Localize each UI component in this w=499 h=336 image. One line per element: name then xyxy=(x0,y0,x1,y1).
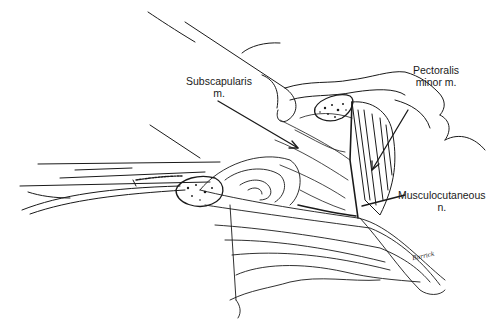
label-subscapularis: Subscapularis m. xyxy=(186,75,252,99)
upper-retractor xyxy=(185,22,296,122)
anatomy-drawing xyxy=(0,0,499,336)
bone-fragment xyxy=(176,177,223,207)
label-line: minor m. xyxy=(413,76,459,88)
subscapularis-muscle xyxy=(275,114,356,217)
label-line: Subscapularis xyxy=(186,75,252,87)
label-line: Pectoralis xyxy=(413,64,459,76)
label-line: Musculocutaneous xyxy=(398,189,486,201)
clamp-forceps xyxy=(20,12,220,214)
pectoralis-minor-muscle xyxy=(350,102,395,218)
illustration-canvas: Subscapularis m. Pectoralis minor m. Mus… xyxy=(0,0,499,336)
label-line: n. xyxy=(398,201,486,213)
label-pectoralis-minor: Pectoralis minor m. xyxy=(413,64,459,88)
leader-lines xyxy=(218,101,408,206)
label-line: m. xyxy=(186,87,252,99)
label-musculocutaneous: Musculocutaneous n. xyxy=(398,189,486,213)
humeral-head xyxy=(200,157,300,205)
